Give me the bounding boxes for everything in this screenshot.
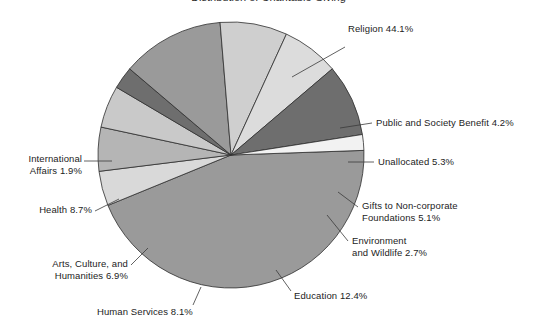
pie-slices (98, 22, 364, 288)
slice-label-health: Health 8.7% (8, 204, 92, 216)
slice-label-public-society: Public and Society Benefit 4.2% (376, 117, 514, 129)
slice-label-arts-culture: Arts, Culture, and Humanities 6.9% (8, 258, 128, 281)
pie-chart: Distribution of Charitable Giving Religi… (0, 0, 537, 331)
slice-label-gifts-foundations: Gifts to Non-corporate Foundations 5.1% (362, 200, 458, 223)
slice-label-international: International Affairs 1.9% (4, 153, 82, 176)
leader-human-services (193, 287, 201, 305)
slice-label-education: Education 12.4% (294, 290, 367, 302)
slice-label-human-services: Human Services 8.1% (97, 306, 193, 318)
slice-label-environment: Environment and Wildlife 2.7% (352, 235, 427, 258)
slice-label-unallocated: Unallocated 5.3% (378, 156, 454, 168)
slice-label-religion: Religion 44.1% (348, 23, 413, 35)
